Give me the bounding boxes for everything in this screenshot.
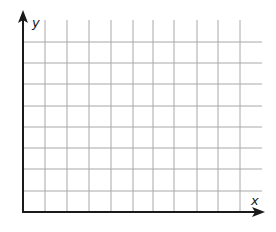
x-axis-label: x bbox=[250, 193, 259, 208]
coordinate-grid: x y bbox=[0, 0, 276, 232]
axes bbox=[18, 10, 265, 217]
grid-lines bbox=[23, 20, 262, 212]
y-axis-label: y bbox=[31, 15, 40, 30]
